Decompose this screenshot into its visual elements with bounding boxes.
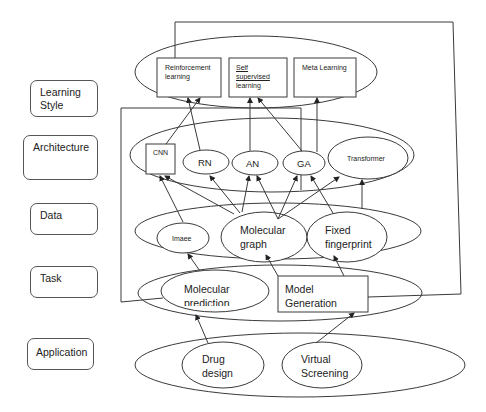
fingerprint-line-2: fingerprint bbox=[325, 237, 372, 251]
model-generation-label: Model Generation bbox=[285, 282, 337, 310]
layer-label-learning-style: Learning Style bbox=[30, 80, 98, 117]
reinforcement-line-2: learning bbox=[165, 72, 211, 81]
layer-label-text: Application bbox=[36, 346, 87, 358]
arrow-molgraph-to-an bbox=[242, 176, 249, 212]
molpred-line-1: Molecular bbox=[184, 282, 230, 296]
an-label: AN bbox=[246, 157, 259, 170]
molgraph-line-2: graph bbox=[240, 237, 286, 251]
self-supervised-label: Self supervised learning bbox=[236, 63, 270, 90]
layer-label-text: Architecture bbox=[33, 141, 89, 153]
molecular-prediction-label: Molecular prediction bbox=[184, 282, 230, 306]
vs-line-2: Screening bbox=[301, 366, 348, 380]
virtual-screening-label: Virtual Screening bbox=[301, 352, 348, 380]
layer-label-text: Task bbox=[40, 272, 62, 284]
layer-label-application: Application bbox=[27, 338, 94, 370]
drug-line-2: design bbox=[202, 366, 233, 380]
molecular-graph-label: Molecular graph bbox=[240, 223, 286, 251]
molgraph-line-1: Molecular bbox=[240, 223, 286, 237]
arrow-molgraph-to-cnn bbox=[165, 176, 234, 214]
layer-label-text: Learning Style bbox=[40, 86, 86, 112]
meta-line: Meta Learning bbox=[302, 63, 347, 72]
modelgen-line-2: Generation bbox=[285, 296, 337, 310]
fingerprint-line-1: Fixed bbox=[325, 223, 372, 237]
meta-learning-label: Meta Learning bbox=[302, 63, 347, 72]
reinforcement-label: Reinforcement learning bbox=[165, 63, 211, 81]
layer-label-text: Data bbox=[40, 209, 62, 221]
ga-label: GA bbox=[297, 157, 311, 170]
arrow-molgraph-to-rn bbox=[210, 176, 240, 213]
self-line-2: supervised bbox=[236, 72, 270, 81]
arrow-cnn-to-reinforcement bbox=[166, 98, 200, 144]
reinforcement-line-1: Reinforcement bbox=[165, 63, 211, 72]
self-line-1: Self bbox=[236, 63, 270, 72]
arrow-vs-to-modelgen bbox=[316, 313, 354, 343]
layer-label-task: Task bbox=[30, 266, 98, 298]
modelgen-line-1: Model bbox=[285, 282, 337, 296]
rn-label: RN bbox=[198, 156, 212, 169]
fixed-fingerprint-label: Fixed fingerprint bbox=[325, 223, 372, 251]
molpred-line-2: prediction bbox=[184, 296, 230, 306]
cnn-label: CNN bbox=[153, 148, 168, 157]
drug-design-label: Drug design bbox=[202, 352, 233, 380]
self-line-3: learning bbox=[236, 81, 270, 90]
arrow-molpred-to-image bbox=[188, 254, 200, 271]
image-label: Imaee bbox=[172, 234, 191, 243]
layer-label-architecture: Architecture bbox=[23, 135, 98, 180]
drug-line-1: Drug bbox=[202, 352, 233, 366]
vs-line-1: Virtual bbox=[301, 352, 348, 366]
layer-label-data: Data bbox=[30, 203, 98, 235]
transformer-label: Transformer bbox=[347, 154, 385, 163]
